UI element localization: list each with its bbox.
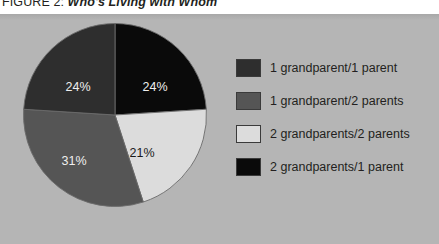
figure-container: FIGURE 2: Who's Living with Whom 24%21%3…	[0, 0, 439, 244]
legend-label: 1 grandparent/2 parents	[270, 94, 403, 108]
legend-label: 2 grandparents/1 parent	[270, 160, 403, 174]
figure-caption-strip: FIGURE 2: Who's Living with Whom	[0, 0, 439, 14]
legend-label: 2 grandparents/2 parents	[270, 127, 410, 141]
pie-slice-value-label: 21%	[129, 146, 154, 160]
legend-item-1-grandparent-2-parents: 1 grandparent/2 parents	[236, 91, 432, 111]
legend-item-1-grandparent-1-parent: 1 grandparent/1 parent	[236, 58, 432, 78]
chart-panel: 24%21%31%24% 1 grandparent/1 parent 1 gr…	[0, 14, 439, 244]
pie-slice-value-label: 31%	[61, 154, 86, 168]
legend-swatch	[236, 158, 261, 176]
pie-slice-group	[23, 24, 206, 207]
legend-item-2-grandparents-1-parent: 2 grandparents/1 parent	[236, 157, 432, 177]
pie-chart: 24%21%31%24%	[22, 22, 208, 208]
pie-chart-svg: 24%21%31%24%	[22, 22, 208, 208]
legend-label: 1 grandparent/1 parent	[270, 61, 397, 75]
figure-title: Who's Living with Whom	[68, 0, 218, 9]
legend-swatch	[236, 59, 261, 77]
figure-number-label: FIGURE 2:	[2, 0, 64, 9]
legend-swatch	[236, 92, 261, 110]
legend-swatch	[236, 125, 261, 143]
legend-item-2-grandparents-2-parents: 2 grandparents/2 parents	[236, 124, 432, 144]
pie-slice-value-label: 24%	[142, 80, 167, 94]
pie-slice	[24, 24, 115, 116]
figure-caption: FIGURE 2: Who's Living with Whom	[2, 0, 217, 9]
chart-legend: 1 grandparent/1 parent 1 grandparent/2 p…	[236, 58, 432, 177]
panel-top-shading	[0, 14, 439, 20]
pie-slice-value-label: 24%	[65, 80, 90, 94]
pie-slice	[115, 24, 206, 116]
